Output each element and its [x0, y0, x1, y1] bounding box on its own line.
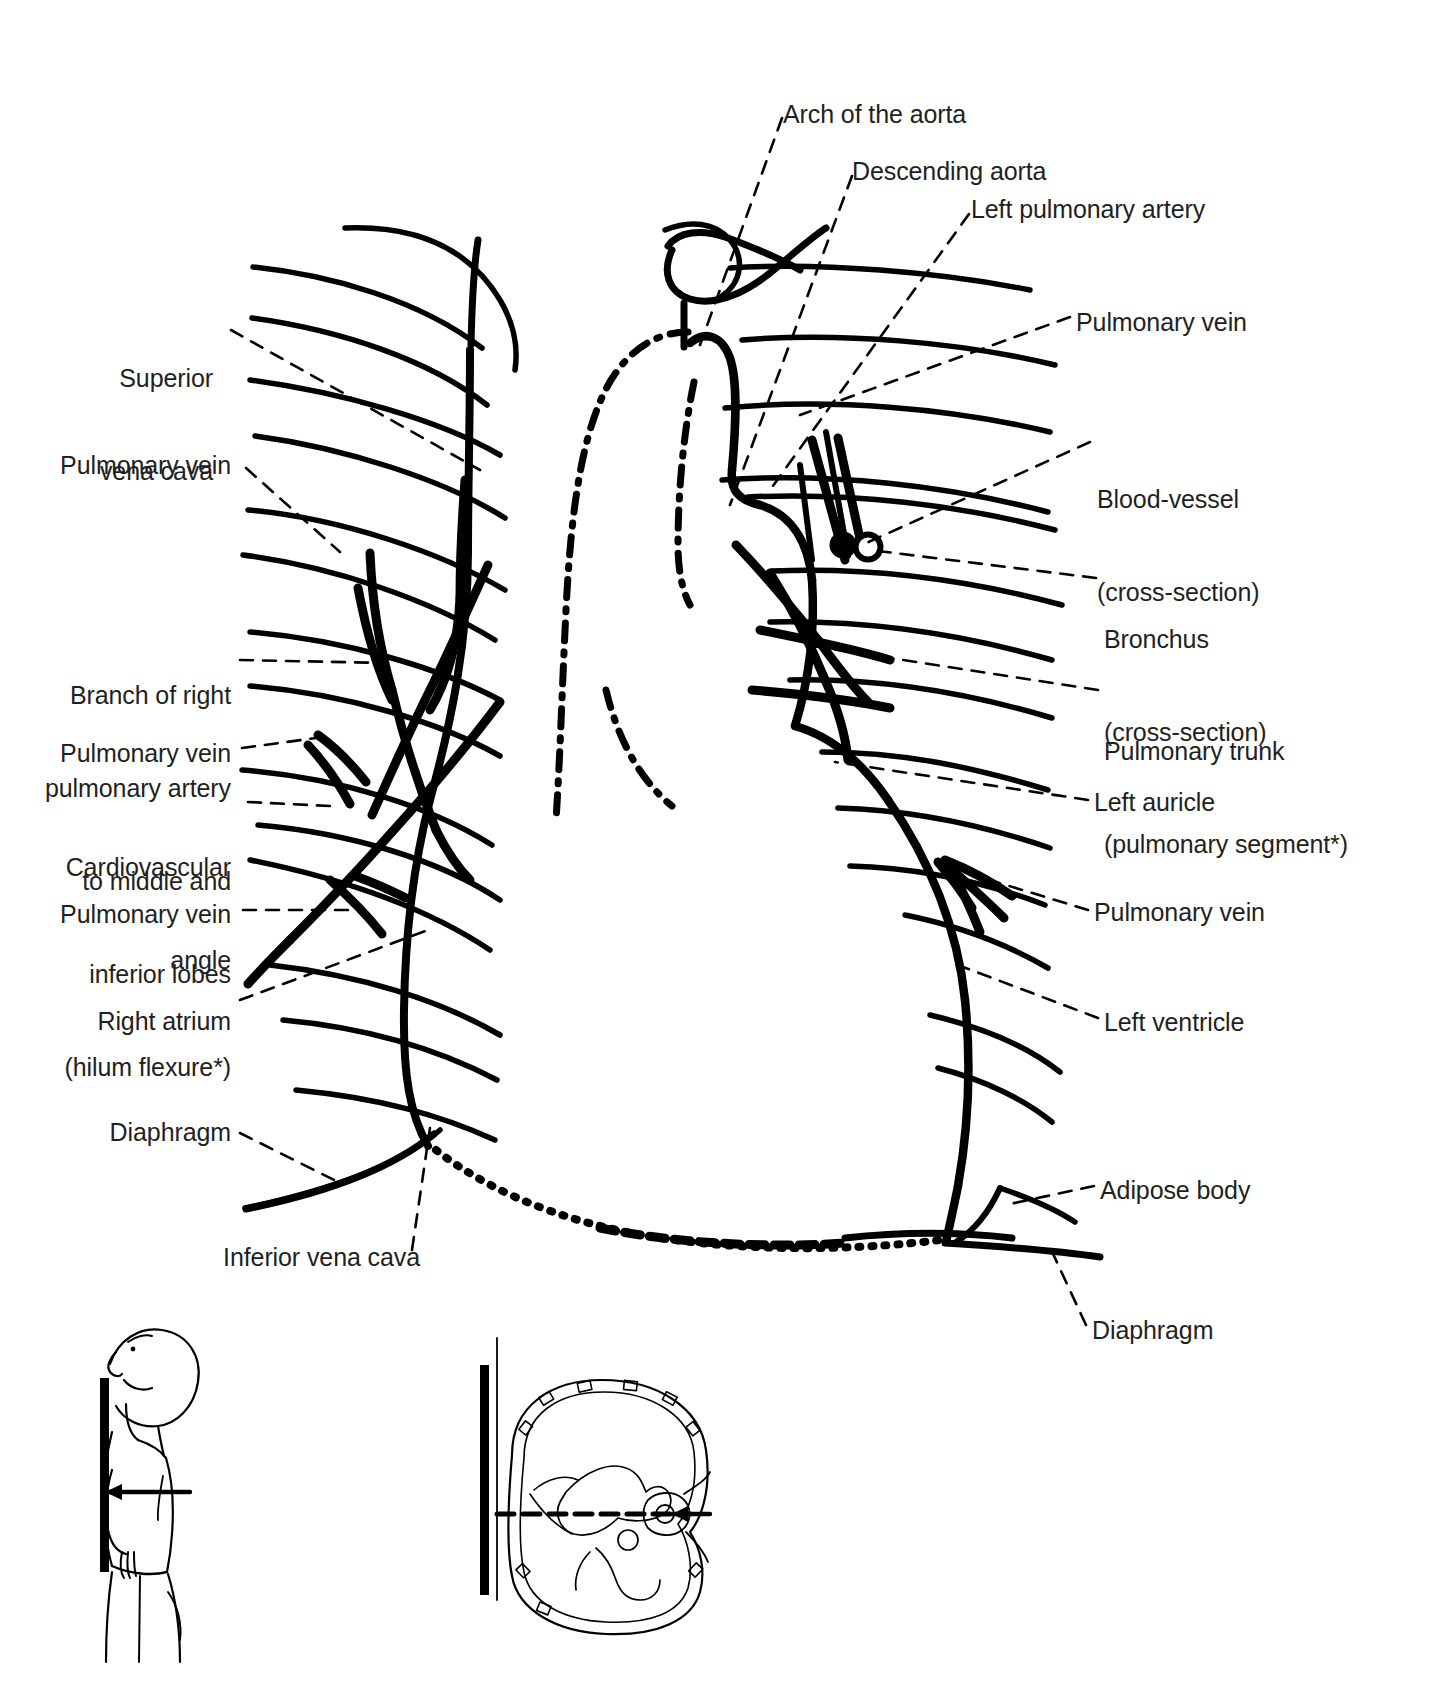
label-adipose-body: Adipose body — [1100, 1175, 1250, 1206]
rib-lines-left — [665, 224, 1075, 1222]
superior-vena-cava-outline — [471, 240, 478, 345]
label-line: (hilum flexure*) — [0, 1052, 231, 1083]
leader-left-ventricle — [950, 962, 1098, 1018]
figure-page: Arch of the aorta Descending aorta Left … — [0, 0, 1445, 1688]
label-line: Blood-vessel — [1097, 484, 1259, 515]
patient-position-inset — [100, 1329, 199, 1662]
label-diaphragm-right: Diaphragm — [1092, 1315, 1213, 1346]
blood-vessel-cross-section-marker — [830, 532, 857, 559]
label-pulmonary-vein-upper-left: Pulmonary vein — [0, 450, 231, 481]
leader-branch-right-pulmonary-artery — [240, 660, 388, 663]
leader-superior-vena-cava — [231, 330, 480, 470]
label-pulmonary-vein-lower-left: Pulmonary vein — [0, 899, 231, 930]
label-pulmonary-vein-right: Pulmonary vein — [1094, 897, 1265, 928]
label-pulmonary-vein-top-right: Pulmonary vein — [1076, 307, 1247, 338]
label-left-pulmonary-artery: Left pulmonary artery — [971, 194, 1205, 225]
leader-diaphragm-left — [240, 1133, 338, 1182]
label-line: Cardiovascular — [0, 852, 231, 883]
inferior-cardiac-dotted-border-2 — [600, 1228, 845, 1245]
cardiac-border-left — [690, 336, 969, 1242]
rib-lines-right — [242, 228, 516, 1208]
label-arch-of-the-aorta: Arch of the aorta — [783, 99, 966, 130]
label-diaphragm-left: Diaphragm — [0, 1117, 231, 1148]
aortic-arch-outline — [667, 228, 826, 347]
label-inferior-vena-cava: Inferior vena cava — [0, 1242, 420, 1273]
leader-cardiovascular-angle — [248, 802, 330, 806]
label-line: Pulmonary trunk — [1104, 736, 1348, 767]
detector-plate — [480, 1365, 489, 1595]
label-line: Superior — [0, 363, 213, 394]
right-hilar-vessels — [248, 480, 500, 984]
label-line: (pulmonary segment*) — [1104, 829, 1348, 860]
label-line: angle — [0, 945, 231, 976]
label-left-auricle: Left auricle — [1094, 787, 1215, 818]
label-pulmonary-vein-mid-left: Pulmonary vein — [0, 738, 231, 769]
thorax-cross-section-inset — [480, 1338, 710, 1634]
label-descending-aorta: Descending aorta — [852, 156, 1046, 187]
label-line: Bronchus — [1104, 624, 1266, 655]
leader-pulmonary-vein-top-right — [800, 317, 1070, 415]
label-superior-vena-cava: Superior vena cava — [0, 301, 213, 549]
label-left-ventricle: Left ventricle — [1104, 1007, 1244, 1038]
label-line: Branch of right — [0, 680, 231, 711]
leader-left-pulmonary-artery — [770, 214, 969, 490]
cross-section-arrow-head — [672, 1506, 688, 1522]
label-right-atrium: Right atrium — [0, 1006, 231, 1037]
mediastinal-dashdot-line — [556, 332, 694, 820]
